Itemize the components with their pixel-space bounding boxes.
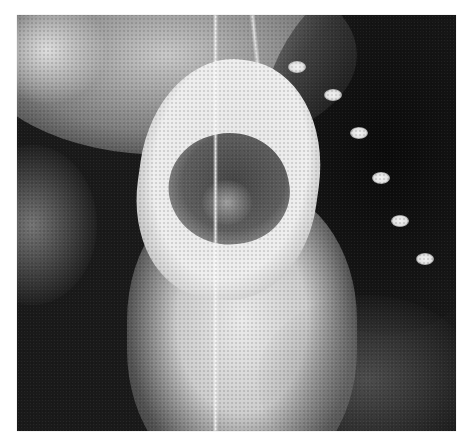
film-grain — [17, 15, 456, 431]
radiograph-image — [17, 15, 456, 431]
